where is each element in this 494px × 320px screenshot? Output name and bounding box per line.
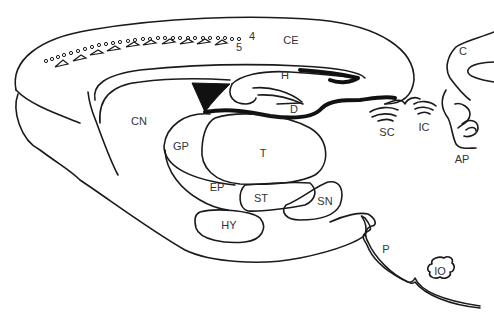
brain-sagittal-diagram (0, 0, 494, 320)
layer-4-dots (44, 36, 240, 62)
label-ST: ST (254, 193, 268, 204)
superior-colliculus-arcs (370, 108, 398, 121)
layer-5-triangles (55, 39, 227, 67)
label-IC: IC (419, 122, 430, 133)
label-CE: CE (283, 35, 298, 46)
caudate-left-edge (88, 92, 118, 175)
label-SC: SC (379, 127, 394, 138)
pons-outline (330, 213, 480, 306)
label-layer-5: 5 (236, 42, 242, 53)
cerebellum-inner-fold (468, 62, 494, 82)
area-postrema-fold-3 (466, 127, 476, 131)
label-HY: HY (221, 220, 236, 231)
label-GP: GP (173, 141, 189, 152)
label-layer-4: 4 (249, 31, 255, 42)
ventricle-black (192, 83, 230, 112)
area-postrema-outline (442, 90, 476, 148)
label-H: H (281, 70, 289, 81)
label-SN: SN (317, 196, 332, 207)
label-C: C (459, 46, 467, 57)
label-T: T (260, 148, 267, 159)
cortex-inner-edge (16, 90, 80, 123)
brainstem-outline (361, 216, 480, 308)
label-EP: EP (210, 182, 225, 193)
subthalamus-outline (240, 183, 315, 212)
label-AP: AP (455, 154, 470, 165)
inferior-colliculus-arcs (414, 102, 436, 114)
label-CN: CN (131, 116, 147, 127)
label-IO: IO (434, 266, 446, 277)
label-D: D (290, 104, 298, 115)
hippocampus-lobe (230, 84, 256, 104)
label-P: P (382, 244, 389, 255)
